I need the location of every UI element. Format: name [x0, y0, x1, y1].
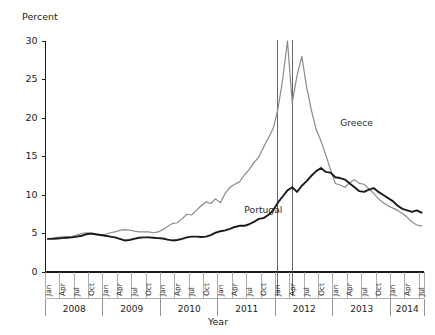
x-month-label: Oct	[259, 283, 268, 296]
x-year-label: 2011	[235, 304, 258, 314]
y-tick-label: 15	[25, 150, 37, 161]
x-year-label: 2014	[396, 304, 419, 314]
x-month-label: Jan	[273, 284, 282, 297]
x-month-label: Jan	[388, 284, 397, 297]
x-month-label: Jul	[245, 287, 254, 297]
y-tick-label: 10	[25, 189, 37, 200]
x-month-label: Apr	[403, 282, 412, 296]
y-tick-label: 20	[25, 112, 37, 123]
line-chart-svg: Percent 051015202530 JanAprJulOctJanAprJ…	[0, 0, 435, 335]
x-month-label: Jul	[302, 287, 311, 297]
x-month-label: Oct	[374, 283, 383, 296]
x-month-label: Jan	[216, 284, 225, 297]
series-label-greece: Greece	[340, 117, 373, 128]
x-month-label: Apr	[230, 282, 239, 296]
x-month-label: Jul	[360, 287, 369, 297]
x-month-label: Apr	[58, 282, 67, 296]
x-month-label: Jul	[417, 287, 426, 297]
x-month-label: Jan	[44, 284, 53, 297]
x-month-label: Oct	[202, 283, 211, 296]
x-axis-title: Year	[207, 316, 228, 327]
x-month-label: Apr	[173, 282, 182, 296]
x-year-label: 2013	[350, 304, 373, 314]
x-month-label: Jan	[101, 284, 110, 297]
x-month-label: Apr	[115, 282, 124, 296]
chart-figure: Percent 051015202530 JanAprJulOctJanAprJ…	[0, 0, 435, 335]
x-year-label: 2009	[120, 304, 143, 314]
y-axis-title: Percent	[22, 11, 58, 22]
x-year-label: 2012	[293, 304, 316, 314]
x-month-label: Oct	[317, 283, 326, 296]
series-label-portugal: Portugal	[244, 204, 282, 215]
y-tick-label: 0	[31, 266, 37, 277]
x-year-label: 2010	[178, 304, 201, 314]
y-tick-label: 30	[25, 35, 37, 46]
x-month-label: Jul	[130, 287, 139, 297]
x-month-label: Jan	[158, 284, 167, 297]
x-month-label: Apr	[288, 282, 297, 296]
x-month-label: Jul	[72, 287, 81, 297]
x-month-label: Oct	[144, 283, 153, 296]
x-month-label: Jan	[331, 284, 340, 297]
x-month-label: Oct	[87, 283, 96, 296]
x-month-label: Apr	[345, 282, 354, 296]
x-year-label: 2008	[63, 304, 86, 314]
y-tick-label: 25	[25, 73, 37, 84]
y-tick-label: 5	[31, 227, 37, 238]
x-month-label: Jul	[187, 287, 196, 297]
